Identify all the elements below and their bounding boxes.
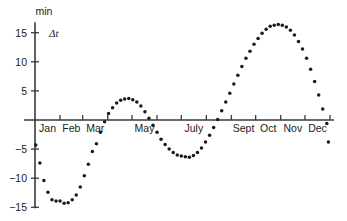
data-point — [313, 80, 317, 84]
axes-group — [24, 22, 334, 208]
data-point — [155, 130, 159, 134]
data-point — [99, 130, 103, 134]
data-point — [159, 137, 163, 141]
x-axis-month-labels: JanFebMarMayJulySeptOctNovDec — [39, 122, 327, 134]
data-point — [95, 142, 99, 146]
data-point — [204, 140, 208, 144]
month-label-oct: Oct — [260, 122, 276, 134]
data-points — [34, 23, 330, 205]
data-point — [151, 123, 155, 127]
data-point — [240, 65, 244, 69]
data-point — [317, 93, 321, 97]
data-point — [244, 57, 248, 61]
data-point — [119, 98, 123, 102]
month-label-jan: Jan — [39, 122, 56, 134]
data-point — [277, 23, 281, 27]
data-point — [115, 101, 119, 105]
y-tick-label: 10 — [15, 56, 27, 68]
y-tick-label: 5 — [21, 85, 27, 97]
data-point — [83, 174, 87, 178]
data-point — [111, 106, 115, 110]
data-point — [58, 199, 62, 203]
month-label-feb: Feb — [62, 122, 80, 134]
data-point — [293, 33, 297, 37]
data-point — [327, 140, 331, 144]
data-point — [256, 37, 260, 41]
data-point — [147, 117, 151, 121]
data-point — [264, 27, 268, 31]
y-tick-label: −10 — [9, 172, 27, 184]
data-point — [79, 185, 83, 189]
month-label-nov: Nov — [283, 122, 302, 134]
data-point — [131, 98, 135, 102]
data-point — [171, 151, 175, 155]
data-point — [228, 91, 232, 95]
data-point — [232, 82, 236, 86]
series-label-delta-t: Δt — [48, 27, 59, 39]
data-point — [212, 126, 216, 130]
y-tick-label: 15 — [15, 27, 27, 39]
equation-of-time-chart: 15105−5−10−15 JanFebMarMayJulySeptOctNov… — [0, 0, 347, 221]
y-tick-label: −15 — [9, 201, 27, 213]
data-point — [200, 146, 204, 150]
data-point — [248, 50, 252, 54]
data-point — [135, 100, 139, 104]
data-point — [34, 143, 38, 147]
data-point — [289, 29, 293, 33]
data-point — [252, 43, 256, 47]
data-point — [70, 198, 74, 202]
data-point — [143, 110, 147, 114]
data-point — [188, 156, 192, 160]
chart-canvas: 15105−5−10−15 JanFebMarMayJulySeptOctNov… — [0, 0, 347, 221]
data-point — [38, 161, 42, 165]
data-point — [220, 109, 224, 113]
month-label-may: May — [135, 122, 156, 134]
data-point — [281, 23, 285, 27]
data-point — [123, 97, 127, 101]
data-point — [50, 198, 54, 202]
data-point — [127, 97, 131, 101]
data-point — [297, 40, 301, 44]
data-point — [46, 190, 50, 194]
data-point — [236, 73, 240, 77]
data-point — [103, 120, 107, 124]
data-point — [285, 25, 289, 29]
month-label-sept: Sept — [233, 122, 255, 134]
data-point — [260, 32, 264, 36]
y-tick-label: −5 — [15, 143, 27, 155]
data-point — [325, 122, 329, 126]
data-point — [305, 57, 309, 61]
data-point — [176, 153, 180, 157]
data-point — [91, 150, 95, 154]
data-point — [184, 155, 188, 159]
y-axis-unit-label: min — [36, 5, 53, 17]
data-point — [224, 100, 228, 104]
data-point — [216, 118, 220, 122]
data-point — [208, 133, 212, 137]
month-label-dec: Dec — [308, 122, 327, 134]
data-point — [42, 179, 46, 183]
data-point — [196, 151, 200, 155]
data-point — [167, 147, 171, 151]
data-point — [163, 143, 167, 147]
data-point — [309, 68, 313, 72]
data-point — [180, 154, 184, 158]
data-point — [268, 25, 272, 29]
data-point — [87, 162, 91, 166]
month-label-july: July — [184, 122, 203, 134]
data-point — [301, 47, 305, 51]
data-point — [107, 112, 111, 116]
data-point — [74, 193, 78, 197]
data-point — [54, 199, 58, 203]
data-point — [272, 23, 276, 27]
data-point — [139, 104, 143, 108]
data-point — [66, 201, 70, 205]
data-point — [62, 201, 66, 205]
data-point — [321, 107, 325, 111]
data-point — [192, 154, 196, 158]
